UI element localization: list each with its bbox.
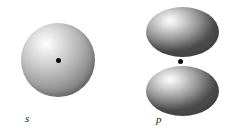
p-orbital-upper-lobe [146,7,219,57]
p-orbital-label: p [156,114,162,125]
s-orbital-nucleus-dot [56,58,61,63]
p-orbital-nucleus-dot [178,59,183,64]
orbital-diagram: s p [0,0,234,140]
s-orbital-label: s [25,113,29,124]
p-orbital-lower-lobe [146,66,219,116]
